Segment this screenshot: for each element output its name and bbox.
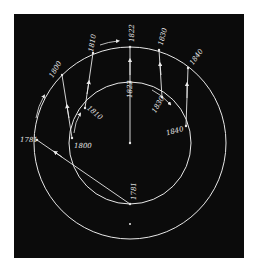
orbit-motion-arrows bbox=[36, 41, 170, 133]
label-outer-1830: 1830 bbox=[157, 27, 169, 47]
label-inner-1800: 1800 bbox=[74, 142, 92, 150]
force-lines bbox=[37, 47, 188, 204]
lower-dot bbox=[129, 223, 131, 225]
orbit-diagram: 1781 1800 1810 1822 1830 1840 1781 1800 … bbox=[0, 0, 260, 275]
label-outer-1781: 1781 bbox=[20, 136, 38, 144]
label-outer-1822: 1822 bbox=[128, 24, 136, 42]
label-inner-1822: 1822 bbox=[126, 80, 134, 98]
label-inner-1840: 1840 bbox=[165, 125, 185, 137]
label-inner-1781: 1781 bbox=[130, 182, 138, 200]
label-outer-1810: 1810 bbox=[87, 33, 98, 52]
label-outer-1840: 1840 bbox=[188, 47, 205, 67]
label-inner-1810: 1810 bbox=[85, 104, 104, 122]
